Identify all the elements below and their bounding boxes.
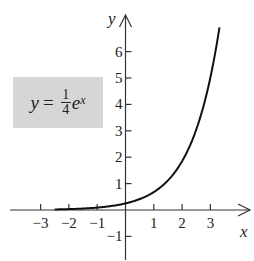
y-tick-label: −1 [107, 228, 123, 244]
y-axis-label: y [106, 9, 116, 28]
x-tick-label: −2 [61, 215, 77, 231]
y-tick-label: 5 [115, 70, 123, 86]
x-tick-label: −3 [33, 215, 49, 231]
equation-base: e [72, 92, 80, 114]
x-ticks: −3−2−1123 [33, 204, 215, 231]
exponential-chart: −3−2−1123 −1123456 x y [0, 0, 254, 261]
y-tick-label: 3 [115, 123, 123, 139]
fraction-denominator: 4 [62, 103, 69, 117]
y-tick-label: 6 [115, 44, 123, 60]
equation-exponent: x [80, 93, 85, 108]
equation-label-box: y = 1 4 ex [13, 77, 103, 128]
y-tick-label: 2 [115, 149, 123, 165]
fraction-numerator: 1 [62, 88, 69, 102]
x-axis-label: x [239, 222, 248, 241]
x-tick-label: −1 [89, 215, 105, 231]
y-ticks: −1123456 [107, 44, 132, 245]
equation-equals: = [43, 92, 54, 114]
y-tick-label: 4 [115, 96, 123, 112]
x-tick-label: 2 [178, 215, 186, 231]
equation-lhs: y [31, 92, 39, 114]
x-tick-label: 1 [150, 215, 158, 231]
equation-fraction: 1 4 [61, 88, 71, 117]
x-tick-label: 3 [207, 215, 215, 231]
equation-label: y = 1 4 ex [13, 77, 103, 128]
y-tick-label: 1 [115, 176, 123, 192]
